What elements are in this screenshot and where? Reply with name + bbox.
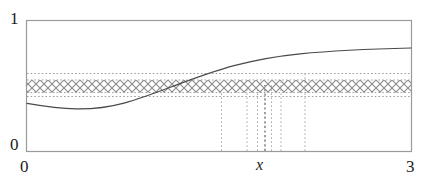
plot-canvas <box>0 0 431 182</box>
confidence-band <box>27 74 411 97</box>
band-hatch-fill <box>27 80 411 93</box>
x-axis-right-label: 3 <box>406 158 415 175</box>
y-axis-top-label: 1 <box>10 10 19 27</box>
y-axis-bottom-label: 0 <box>10 136 19 153</box>
x-axis-left-label: 0 <box>20 158 29 175</box>
x-variable-label: x <box>256 157 263 173</box>
function-curve <box>27 48 411 109</box>
chart-figure: 1 0 0 3 x <box>0 0 431 182</box>
